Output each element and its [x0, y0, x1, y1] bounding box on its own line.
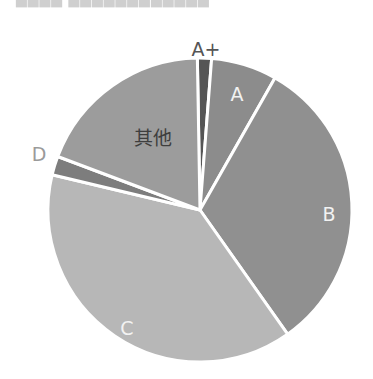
slice-label: C — [120, 317, 133, 339]
pie-slices — [48, 58, 352, 362]
slice-label: 其他 — [134, 127, 172, 149]
pie-chart: A+ABCD其他 — [0, 0, 373, 379]
slice-label: A+ — [192, 38, 221, 60]
slice-label: B — [322, 203, 335, 225]
slice-label: A — [231, 83, 244, 105]
slice-label: D — [32, 143, 47, 165]
